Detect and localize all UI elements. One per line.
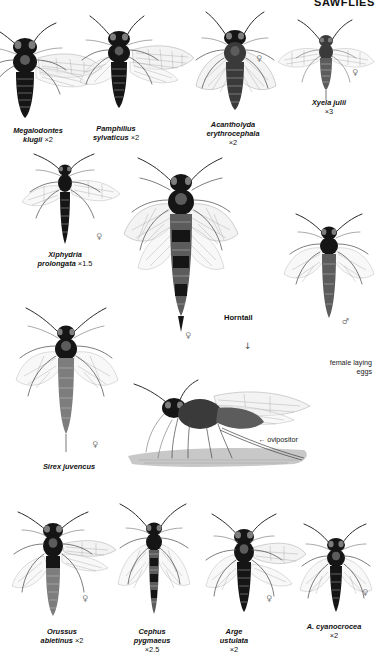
figure-xiphydria-prolongata [16,152,126,256]
figure-cephus-pygmaeus [106,502,202,624]
species-name-line2: pygmaeus [134,636,171,645]
caption-xyela-julii: Xyela julii ×3 [288,98,370,116]
species-name-line2: abietinus [41,636,73,645]
plate-header-title: SAWFLIES [314,0,375,8]
magnification: ×2 [330,631,338,640]
sex-symbol-female-horntail: ♀ [185,331,191,340]
sex-symbol-female-acantholyda: ♀ [256,54,262,63]
caption-a-cyanocrocea: A. cyanocrocea ×2 [288,622,380,640]
magnification: ×2 [44,135,52,144]
species-name-line1: Megalodontes [13,126,63,135]
magnification: ×1.5 [78,259,93,268]
species-name-line2: sylvaticus [93,133,129,142]
label-ovipositor: ← ovipositor [258,435,374,444]
species-name-line2: erythrocephala [207,129,260,138]
magnification: ×2 [131,133,139,142]
figure-horntail-male [278,212,381,332]
magnification: ×2 [75,636,83,645]
arrow-down-icon: ↓ [244,341,252,351]
sex-symbol-female-sirex: ♀ [92,440,98,449]
species-name-line2: klugii [23,135,42,144]
sex-symbol-female-xyela: ♀ [352,68,358,77]
label-horntail: Horntail [224,313,253,323]
female-laying-eggs-line2: eggs [356,367,372,376]
sex-symbol-female-arge: ♀ [266,594,272,603]
female-laying-eggs-line1: female laying [330,358,372,367]
species-name-line2: prolongata [38,259,76,268]
magnification: ×2 [229,138,237,147]
magnification: ×3 [325,107,333,116]
caption-sirex-juvencus: Sirex juvencus [14,462,124,471]
species-name-line1: Pamphilius [96,124,135,133]
figure-orussus-abietinus [4,506,122,624]
species-name-line1: Acantholyda [211,120,255,129]
species-name-line1: Xyela julii [312,98,346,107]
sex-symbol-female-xiphydria: ♀ [96,232,102,241]
sex-symbol-male-horntail: ♂ [342,317,349,326]
sex-symbol-female-orussus: ♀ [82,594,88,603]
magnification: ×2.5 [145,645,160,654]
species-name: A. cyanocrocea [307,622,362,631]
figure-arge-ustulata [198,512,308,624]
species-name: Sirex juvencus [43,462,95,471]
ovipositor-text: ← ovipositor [258,435,298,444]
species-name-line1: Xiphydria [48,250,82,259]
species-name-line1: Cephus [138,627,165,636]
species-name-line1: Orussus [47,627,77,636]
figure-xyela-julii [274,16,378,104]
species-name-line2: ustulata [220,636,248,645]
label-female-laying-eggs: female laying eggs [268,358,372,377]
caption-megalodontes-klugii: Megalodontes klugii ×2 [2,126,74,144]
caption-acantholyda-erythrocephala: Acantholyda erythrocephala ×2 [186,120,280,148]
caption-orussus-abietinus: Orussus abietinus ×2 [16,627,108,645]
figure-sirex-juvencus [8,306,130,456]
caption-cephus-pygmaeus: Cephus pygmaeus ×2.5 [110,627,194,655]
species-name-line1: Arge [226,627,243,636]
figure-pamphilius-sylvaticus [78,12,198,122]
caption-arge-ustulata: Arge ustulata ×2 [196,627,272,655]
magnification: ×2 [230,645,238,654]
plate-page: SAWFLIES [0,0,381,661]
sex-symbol-female-cyanocrocea: ♀ [362,588,368,597]
figure-a-cyanocrocea [294,522,381,624]
caption-pamphilius-sylvaticus: Pamphilius sylvaticus ×2 [72,124,160,142]
figure-female-laying-eggs [118,378,328,482]
caption-xiphydria-prolongata: Xiphydria prolongata ×1.5 [10,250,120,268]
